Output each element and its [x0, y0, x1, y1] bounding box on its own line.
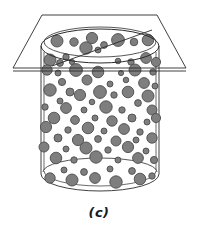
particle: [137, 129, 143, 135]
cylinder-group: [41, 29, 159, 191]
particle: [81, 107, 87, 113]
particle: [100, 101, 112, 113]
particle: [122, 141, 133, 152]
particle: [40, 121, 51, 132]
particle: [101, 128, 107, 134]
particle: [144, 119, 150, 125]
particle: [61, 167, 67, 173]
particle: [142, 90, 154, 102]
particle: [107, 81, 113, 87]
particle: [151, 57, 160, 66]
particle: [133, 153, 144, 164]
particle: [92, 115, 98, 121]
particle: [147, 133, 157, 143]
particle: [135, 100, 142, 107]
particle: [54, 134, 62, 142]
particle: [149, 173, 155, 179]
particle: [139, 78, 150, 89]
particle: [66, 88, 74, 96]
particle: [45, 173, 55, 183]
particle: [111, 136, 121, 146]
particle: [94, 86, 107, 99]
particle: [111, 92, 117, 98]
particle: [150, 156, 157, 163]
cylinder-plane-diagram: [0, 0, 198, 237]
particle: [129, 168, 136, 175]
particle: [51, 35, 63, 47]
particle: [74, 89, 85, 100]
particle: [119, 107, 125, 113]
cylinder-body-fill: [41, 29, 159, 191]
particle: [57, 98, 63, 104]
particle: [71, 116, 80, 125]
particle: [61, 103, 72, 114]
particle: [152, 83, 158, 89]
particle: [112, 34, 125, 47]
particle: [66, 174, 78, 186]
particle: [71, 157, 77, 163]
particle: [82, 122, 94, 134]
particle: [70, 38, 78, 46]
particle: [129, 64, 141, 76]
particle: [63, 146, 69, 152]
particle: [107, 166, 113, 172]
figure-caption: (c): [0, 205, 198, 220]
particle: [90, 173, 101, 184]
particle: [119, 124, 130, 135]
particle: [44, 54, 56, 66]
particle: [134, 173, 146, 185]
particle: [115, 58, 121, 64]
particle: [89, 99, 95, 105]
particle: [122, 86, 134, 98]
particle: [82, 75, 92, 85]
particle: [58, 78, 65, 85]
particle: [50, 152, 62, 164]
particle: [42, 104, 48, 110]
particle: [128, 114, 136, 122]
particle: [130, 38, 138, 46]
particle: [90, 151, 102, 163]
particle: [65, 127, 71, 133]
particle: [39, 142, 49, 152]
particle: [110, 176, 122, 188]
particle: [44, 84, 56, 96]
particle: [123, 77, 129, 83]
particle: [143, 148, 149, 154]
particle: [95, 136, 102, 143]
particle: [48, 112, 60, 124]
particle: [105, 147, 111, 153]
particle: [70, 64, 83, 77]
particle: [115, 157, 121, 163]
particle: [133, 137, 139, 143]
particle: [107, 116, 117, 126]
particle: [151, 113, 160, 122]
figure-container: (c): [0, 0, 198, 237]
particle: [150, 69, 156, 75]
particle: [42, 65, 52, 75]
particle: [81, 169, 88, 176]
particle: [80, 142, 92, 154]
